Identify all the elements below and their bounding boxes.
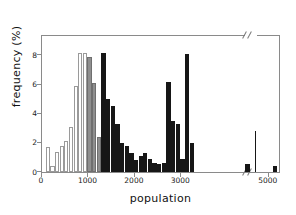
histogram-bar — [245, 164, 249, 172]
histogram-bar — [255, 131, 257, 172]
histogram-bar — [162, 163, 166, 172]
plot-area: 02468 01000200030005000 — [41, 35, 280, 172]
histogram-bar — [83, 53, 87, 173]
histogram-bar — [97, 137, 101, 172]
histogram-bar — [273, 166, 277, 172]
top-frame-left — [41, 35, 245, 36]
y-tick-label: 8 — [25, 52, 37, 60]
histogram-bar — [87, 57, 91, 172]
histogram-bar — [101, 53, 105, 173]
histogram-bar — [148, 159, 152, 172]
x-tick-label: 2000 — [119, 177, 149, 185]
histogram-bar — [60, 146, 64, 172]
x-axis-title: population — [41, 192, 280, 205]
histogram-bar — [125, 146, 129, 172]
x-tick-label: 3000 — [165, 177, 195, 185]
x-tick-label: 0 — [26, 177, 56, 185]
histogram-bar — [111, 106, 115, 172]
top-frame-right — [257, 35, 280, 36]
histogram-bar — [55, 152, 59, 172]
histogram-bar — [166, 82, 170, 172]
axis-break-mark-top-2 — [247, 31, 252, 39]
y-tick-label: 0 — [25, 169, 37, 177]
histogram-bar — [120, 143, 124, 172]
y-axis-line — [41, 35, 42, 173]
histogram-bar — [157, 164, 161, 172]
histogram-bar — [115, 124, 119, 172]
histogram-bar — [152, 163, 156, 172]
histogram-bar — [129, 153, 133, 172]
histogram-bar — [176, 124, 180, 172]
histogram-bar — [185, 54, 189, 172]
right-frame-line — [279, 35, 280, 173]
histogram-bar — [139, 156, 143, 172]
histogram-bar — [64, 141, 68, 172]
histogram-bar — [180, 159, 184, 172]
histogram-bar — [92, 83, 96, 172]
histogram-bar — [50, 166, 54, 172]
histogram-figure: 02468 01000200030005000 population frequ… — [0, 0, 296, 215]
y-tick — [37, 54, 41, 55]
histogram-bar — [143, 153, 147, 172]
y-tick-label: 4 — [25, 110, 37, 118]
histogram-bar — [69, 127, 73, 172]
histogram-bar — [171, 121, 175, 172]
y-tick — [37, 142, 41, 143]
histogram-bar — [106, 99, 110, 172]
y-axis-title: frequency (%) — [10, 7, 23, 127]
y-tick-label: 6 — [25, 81, 37, 89]
y-tick — [37, 84, 41, 85]
histogram-bar — [46, 147, 50, 172]
histogram-bar — [134, 160, 138, 172]
histogram-bar — [74, 86, 78, 172]
histogram-bar — [78, 53, 82, 173]
y-tick-label: 2 — [25, 139, 37, 147]
y-tick — [37, 113, 41, 114]
y-tick — [37, 171, 41, 172]
x-tick-label: 5000 — [253, 177, 283, 185]
x-tick-label: 1000 — [72, 177, 102, 185]
histogram-bar — [190, 143, 194, 172]
